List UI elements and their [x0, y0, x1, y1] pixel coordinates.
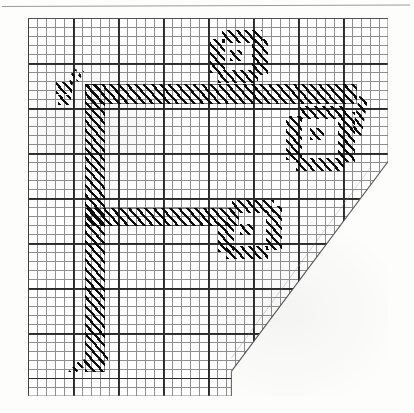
- scan-edge-line: [2, 4, 410, 7]
- scanned-page: A hand-drawn, diagonally hatched F-like …: [0, 0, 414, 413]
- ring-right: [286, 106, 368, 178]
- ring-lower-middle-right: [266, 206, 282, 250]
- ring-top-center-left: [210, 39, 225, 73]
- f-middle-bar: [85, 208, 239, 226]
- accent-upper-left: [56, 68, 86, 106]
- graph-paper-sheet: [28, 18, 388, 396]
- ring-right-left: [286, 116, 302, 160]
- ring-top-center: [210, 30, 272, 88]
- accent-tick-4: [76, 70, 84, 82]
- ring-lower-middle-inner-dot: [240, 224, 253, 235]
- ring-lower-middle-bottom: [226, 246, 268, 259]
- accent-tick-3: [58, 95, 71, 105]
- ring-top-center-inner-dot: [230, 50, 242, 61]
- figure-alt-text: A hand-drawn, diagonally hatched F-like …: [0, 0, 1, 1]
- ring-lower-middle: [218, 200, 290, 266]
- accent-tick-2: [56, 82, 72, 94]
- ring-right-right: [338, 112, 355, 162]
- ring-right-inner-dot: [310, 128, 324, 140]
- ring-right-bottom: [296, 158, 344, 171]
- hatched-figures: [28, 18, 388, 396]
- f-vertical-stem: [85, 84, 105, 372]
- ring-top-center-bottom: [218, 70, 258, 83]
